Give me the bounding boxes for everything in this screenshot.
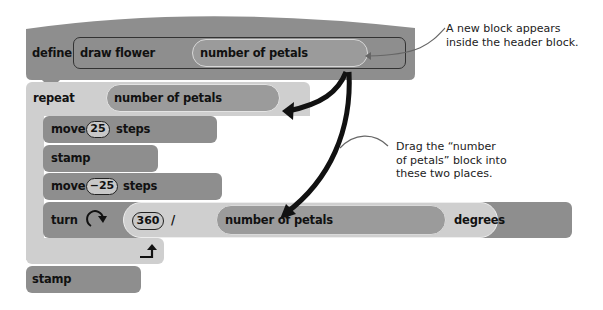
annotation-middle: Drag the “number of petals” block into t…: [396, 140, 507, 181]
annotation-top: A new block appears inside the header bl…: [446, 22, 579, 50]
arrow-head-icon: [282, 102, 294, 120]
